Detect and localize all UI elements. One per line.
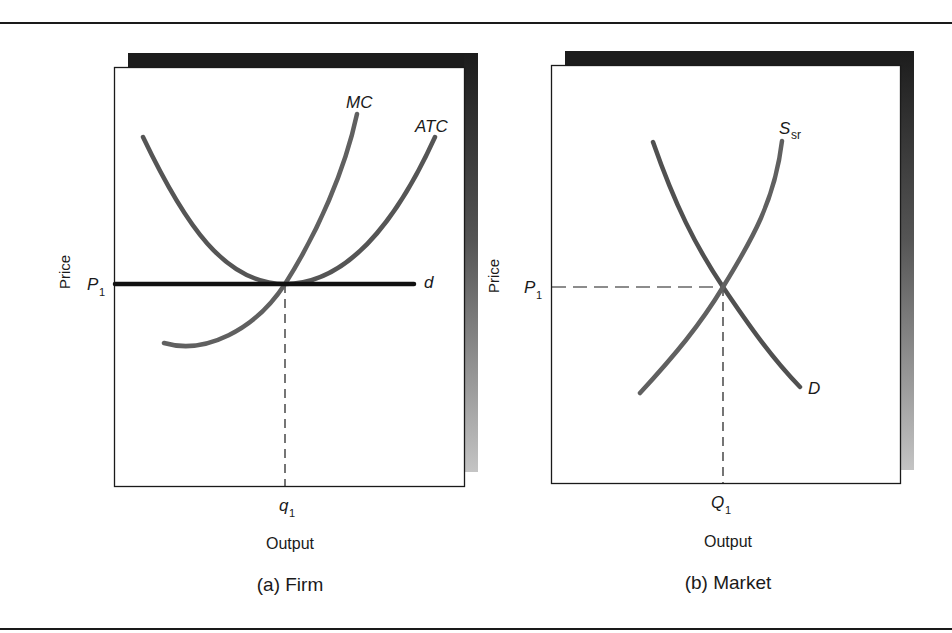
- p1-label-market: P: [524, 278, 536, 297]
- x-axis-label-market: Output: [704, 533, 753, 550]
- y-axis-label-firm: Price: [56, 255, 73, 289]
- p1-sub-firm: 1: [99, 286, 105, 298]
- atc-label: ATC: [414, 117, 448, 136]
- figure: MC ATC d P 1 Price q 1 Output (a) Firm S…: [0, 0, 952, 633]
- p1-sub-market: 1: [536, 289, 542, 301]
- Q1-label: Q: [711, 493, 724, 512]
- firm-demand-label: d: [424, 273, 434, 292]
- frame-shadow-right: [900, 51, 914, 470]
- y-axis-label-market: Price: [485, 259, 502, 293]
- supply-sub: sr: [791, 128, 801, 142]
- panel-market: S sr D P 1 Price Q 1 Output (b) Market: [485, 51, 914, 593]
- Q1-sub: 1: [725, 504, 731, 516]
- frame-shadow-top: [565, 51, 914, 65]
- p1-label-firm: P: [87, 275, 99, 294]
- supply-label: S: [779, 119, 791, 138]
- market-demand-label: D: [808, 379, 820, 398]
- plot-frame: [552, 66, 901, 484]
- mc-label: MC: [346, 93, 373, 112]
- caption-firm: (a) Firm: [257, 574, 323, 595]
- panel-firm: MC ATC d P 1 Price q 1 Output (a) Firm: [56, 53, 478, 595]
- q1-sub: 1: [289, 507, 295, 519]
- frame-shadow-right: [464, 53, 478, 472]
- frame-shadow-top: [128, 53, 478, 67]
- x-axis-label-firm: Output: [266, 535, 315, 552]
- caption-market: (b) Market: [685, 572, 772, 593]
- q1-label: q: [279, 496, 289, 515]
